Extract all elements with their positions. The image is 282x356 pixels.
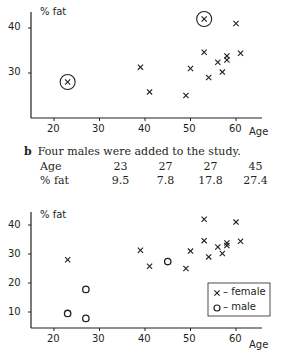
data-point-male <box>83 315 89 321</box>
fat-cell: 7.8 <box>143 173 188 187</box>
age-cell: 27 <box>143 159 188 173</box>
data-point-female <box>188 249 193 254</box>
chart1-xtick-50: 50 <box>183 123 196 134</box>
chart1-xlabel: Age <box>249 126 268 137</box>
chart1-xtick-60: 60 <box>229 123 242 134</box>
age-cell: 23 <box>98 159 143 173</box>
data-point-female <box>224 243 229 248</box>
section-b-text: Four males were added to the study. <box>38 145 241 158</box>
chart1-ytick-40: 40 <box>8 21 21 32</box>
table-row-age: Age 23 27 27 45 <box>40 159 278 173</box>
data-point-female <box>202 50 207 55</box>
data-point-female <box>220 251 225 256</box>
data-point-female <box>147 264 152 269</box>
data-point-male <box>165 258 171 264</box>
section-b: bFour males were added to the study. Age… <box>24 145 282 187</box>
chart2-xtick-60: 60 <box>229 333 242 344</box>
legend-female-label: – female <box>223 286 266 297</box>
data-point-female <box>202 16 207 21</box>
data-point-female <box>215 244 220 249</box>
chart1-points <box>60 12 243 99</box>
chart2-ytick-40: 40 <box>8 219 21 230</box>
chart1-xtick-40: 40 <box>138 123 151 134</box>
data-point-female <box>202 217 207 222</box>
data-point-female <box>233 220 238 225</box>
legend-male-label: – male <box>223 301 256 312</box>
male-data-table: Age 23 27 27 45 % fat 9.5 7.8 17.8 27.4 <box>40 159 278 187</box>
chart2-ytick-20: 20 <box>8 277 21 288</box>
data-point-female <box>138 65 143 70</box>
data-point-female <box>238 239 243 244</box>
chart1-axes <box>28 12 262 121</box>
section-b-label: b <box>24 145 32 158</box>
data-point-female <box>188 66 193 71</box>
data-point-female <box>202 238 207 243</box>
data-point-female <box>65 79 70 84</box>
data-point-female <box>224 240 229 245</box>
chart1-svg <box>0 0 282 140</box>
chart2-ylabel: % fat <box>40 209 66 220</box>
table-row-fat: % fat 9.5 7.8 17.8 27.4 <box>40 173 278 187</box>
chart2-ytick-30: 30 <box>8 248 21 259</box>
chart2-xlabel: Age <box>249 339 268 350</box>
data-point-female <box>206 75 211 80</box>
data-point-female <box>220 70 225 75</box>
data-point-female <box>233 21 238 26</box>
row-header-age: Age <box>40 159 98 173</box>
data-point-female <box>215 60 220 65</box>
fat-cell: 17.8 <box>188 173 233 187</box>
data-point-female <box>206 254 211 259</box>
age-cell: 27 <box>188 159 233 173</box>
data-point-female <box>224 57 229 62</box>
data-point-female <box>147 89 152 94</box>
row-header-fat: % fat <box>40 173 98 187</box>
data-point-female <box>138 248 143 253</box>
chart1-ytick-30: 30 <box>8 66 21 77</box>
data-point-male <box>64 310 70 316</box>
fat-cell: 9.5 <box>98 173 143 187</box>
fat-cell: 27.4 <box>233 173 278 187</box>
data-point-male <box>83 286 89 292</box>
data-point-female <box>183 93 188 98</box>
chart2-xtick-20: 20 <box>47 333 60 344</box>
section-b-title: bFour males were added to the study. <box>24 145 282 158</box>
scatter-chart-females: % fat 40 30 20 30 40 50 60 Age <box>0 0 282 140</box>
age-cell: 45 <box>233 159 278 173</box>
chart1-xtick-30: 30 <box>92 123 105 134</box>
chart1-ylabel: % fat <box>40 6 66 17</box>
chart2-xtick-40: 40 <box>138 333 151 344</box>
chart2-xtick-30: 30 <box>92 333 105 344</box>
data-point-female <box>183 266 188 271</box>
scatter-chart-females-males: % fat 40 30 20 10 20 30 40 50 60 Age – f… <box>0 205 282 356</box>
data-point-female <box>65 257 70 262</box>
chart2-xtick-50: 50 <box>183 333 196 344</box>
data-point-female <box>238 51 243 56</box>
chart2-ytick-10: 10 <box>8 306 21 317</box>
chart1-xtick-20: 20 <box>47 123 60 134</box>
